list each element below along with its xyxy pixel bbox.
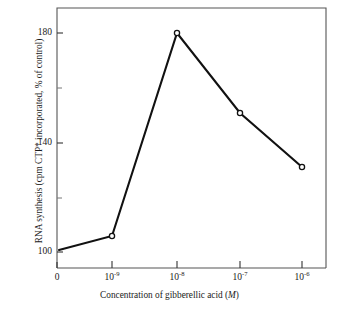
data-point-marker <box>299 164 304 169</box>
plot-area <box>0 0 339 309</box>
x-tick-label-0: 0 <box>37 272 77 282</box>
data-series-rna-synthesis <box>59 30 305 250</box>
x-tick-label-1e-8: 10-8 <box>157 272 197 282</box>
chart-figure: RNA synthesis (cpm CTP* incorporated, % … <box>0 0 339 309</box>
axis-frame <box>57 8 326 268</box>
y-tick-label-180: 180 <box>22 27 52 37</box>
y-tick-label-140: 140 <box>22 137 52 147</box>
y-axis-ticks <box>57 33 63 252</box>
data-point-marker <box>109 233 114 238</box>
x-tick-label-1e-6: 10-6 <box>282 272 322 282</box>
x-tick-label-1e-9: 10-9 <box>92 272 132 282</box>
x-tick-label-1e-7: 10-7 <box>220 272 260 282</box>
y-tick-label-100: 100 <box>22 246 52 256</box>
x-axis-ticks <box>57 261 302 268</box>
data-point-marker <box>237 110 242 115</box>
data-point-marker <box>174 30 179 35</box>
